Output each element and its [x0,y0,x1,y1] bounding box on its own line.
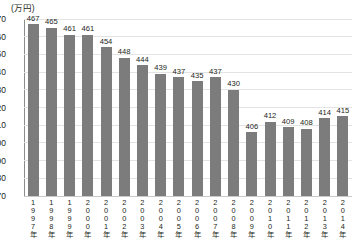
x-axis-tick-label: 2012年 [300,199,313,239]
y-axis-tick-label: 390 [0,157,6,166]
x-axis-tick-label: 2013年 [318,199,331,239]
bar [28,24,39,196]
y-axis-tick-label: 400 [0,139,6,148]
x-axis-tick-label: 2011年 [282,199,295,239]
bar-value-label: 412 [260,112,280,120]
bar-value-label: 448 [114,48,134,56]
gridline-370 [24,196,352,197]
bar [101,47,112,196]
bar-value-label: 461 [78,25,98,33]
bar-value-label: 444 [132,56,152,64]
y-axis-tick-label: 410 [0,121,6,130]
bar-value-label: 415 [333,107,353,115]
bar [228,90,239,196]
bar [173,77,184,196]
x-axis-tick-label: 2004年 [154,199,167,239]
bar-value-label: 467 [23,15,43,23]
bar [246,132,257,196]
x-axis-tick-label: 1997年 [27,199,40,239]
bar [265,122,276,196]
y-axis-tick-label: 450 [0,50,6,59]
y-axis-tick-label: 370 [0,192,6,201]
y-axis-tick-label: 470 [0,15,6,24]
bar-value-label: 430 [224,80,244,88]
plot-area [24,19,352,196]
bar [82,35,93,196]
gridline-470 [24,19,352,20]
bar [283,127,294,196]
y-axis-unit-label: (万円) [11,1,35,13]
x-axis-tick-label: 2014年 [336,199,349,239]
bar [301,129,312,196]
bar [46,28,57,196]
bar-value-label: 461 [60,25,80,33]
x-axis-tick-label: 2010年 [264,199,277,239]
x-axis-tick-label: 2003年 [136,199,149,239]
bar [210,77,221,196]
bar-value-label: 435 [187,72,207,80]
x-axis-tick-label: 2007年 [209,199,222,239]
x-axis-tick-label: 1999年 [63,199,76,239]
x-axis-tick-label: 2008年 [227,199,240,239]
bar [319,118,330,196]
bar-value-label: 454 [96,38,116,46]
bar [192,81,203,196]
bar-chart: (万円) 37038039040041042043044045046047046… [0,0,360,247]
bar [155,74,166,196]
y-axis-tick-label: 430 [0,86,6,95]
bar-value-label: 406 [242,123,262,131]
x-axis-tick-label: 2005年 [172,199,185,239]
bar [119,58,130,196]
bar [337,116,348,196]
x-axis-tick-label: 1998年 [45,199,58,239]
bar-value-label: 465 [41,18,61,26]
y-axis-tick-label: 380 [0,174,6,183]
x-axis-tick-label: 2002年 [118,199,131,239]
x-axis-tick-label: 2001年 [100,199,113,239]
bar-value-label: 408 [296,119,316,127]
bar-value-label: 414 [315,109,335,117]
y-axis-tick-label: 440 [0,68,6,77]
x-axis-tick-label: 2006年 [191,199,204,239]
x-axis-tick-label: 2000年 [81,199,94,239]
bar-value-label: 437 [169,68,189,76]
x-axis-tick-label: 2009年 [245,199,258,239]
bar-value-label: 409 [278,118,298,126]
bar-value-label: 439 [151,64,171,72]
bar [64,35,75,196]
bar-value-label: 437 [205,68,225,76]
y-axis-tick-label: 460 [0,33,6,42]
bar [137,65,148,196]
y-axis-tick-label: 420 [0,104,6,113]
